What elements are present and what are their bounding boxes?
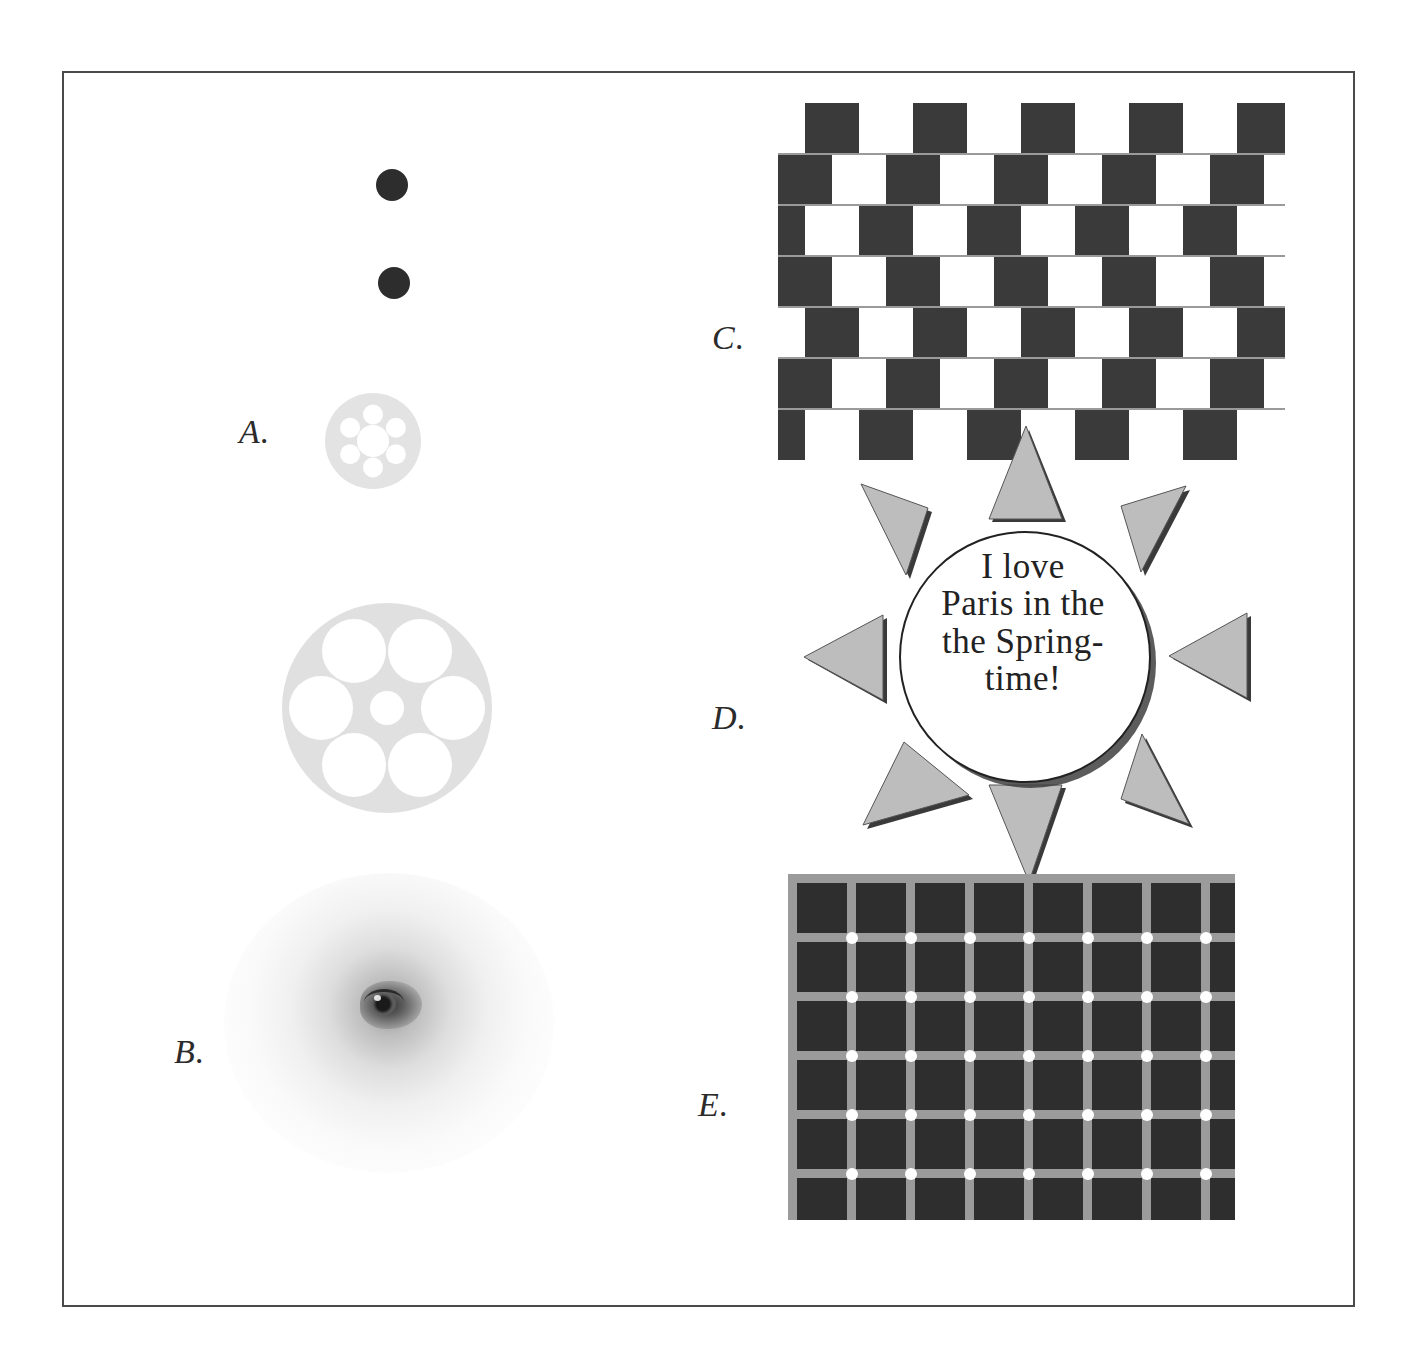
cafe-wall-tile	[778, 307, 805, 358]
cafe-wall-tile	[778, 103, 805, 154]
cafe-wall-tile	[1156, 154, 1210, 205]
grid-cell	[856, 1001, 906, 1051]
grid-cell	[1210, 883, 1235, 933]
grid-intersection-dot	[1023, 932, 1035, 944]
cafe-wall-tile	[1075, 307, 1129, 358]
grid-cell	[1033, 942, 1083, 992]
cafe-wall-tile	[886, 154, 940, 205]
grid-cell	[1033, 1001, 1083, 1051]
panel-c-cafe-wall	[778, 103, 1285, 461]
eye-lid	[364, 989, 404, 1016]
cafe-wall-row	[778, 154, 1285, 205]
cafe-wall-tile	[778, 154, 832, 205]
panel-a-label: A.	[239, 413, 270, 451]
grid-intersection-dot	[846, 1168, 858, 1180]
cafe-wall-tile	[940, 358, 994, 409]
cafe-wall-tile	[778, 205, 805, 256]
panel-d-sunburst: I love Paris in the the Spring- time!	[792, 416, 1262, 896]
grid-intersection-dot	[1023, 1050, 1035, 1062]
grid-cell	[1151, 1178, 1201, 1220]
grid-cell	[1151, 1060, 1201, 1110]
cafe-wall-mortar-line	[778, 255, 1285, 257]
grid-intersection-dot	[1200, 1050, 1212, 1062]
panel-e-scintillating-grid	[788, 874, 1235, 1220]
sun-text-line-2: Paris in the	[898, 585, 1148, 622]
cafe-wall-tile	[1183, 103, 1237, 154]
grid-intersection-dot	[964, 932, 976, 944]
grid-intersection-dot	[1141, 1050, 1153, 1062]
grid-cell	[915, 1060, 965, 1110]
grid-cell	[915, 883, 965, 933]
grid-intersection-dot	[905, 1168, 917, 1180]
grid-cell	[974, 1178, 1024, 1220]
grid-cell	[974, 1001, 1024, 1051]
grid-intersection-dot	[964, 1168, 976, 1180]
grid-cell	[1210, 1060, 1235, 1110]
grid-cell	[856, 942, 906, 992]
cafe-wall-tile	[1264, 256, 1285, 307]
cafe-wall-mortar-line	[778, 357, 1285, 359]
panel-c-label: C.	[712, 319, 745, 357]
grid-cell	[1210, 1178, 1235, 1220]
cafe-wall-tile	[994, 358, 1048, 409]
sun-text-line-1: I love	[898, 548, 1148, 585]
grid-intersection-dot	[846, 932, 858, 944]
cafe-wall-tile	[805, 307, 859, 358]
grid-cell	[856, 1060, 906, 1110]
cafe-wall-tile	[1102, 358, 1156, 409]
grid-intersection-dot	[964, 991, 976, 1003]
panel-e-label: E.	[698, 1086, 729, 1124]
grid-cell	[915, 942, 965, 992]
grid-cell	[797, 1178, 847, 1220]
cafe-wall-tile	[1156, 358, 1210, 409]
cafe-wall-tile	[1102, 256, 1156, 307]
panel-a-small-ring	[323, 391, 423, 491]
grid-intersection-dot	[1082, 932, 1094, 944]
cafe-wall-row	[778, 103, 1285, 154]
grid-cell	[1151, 1001, 1201, 1051]
cafe-wall-tile	[967, 205, 1021, 256]
small-ring-svg	[323, 391, 423, 491]
cafe-wall-row	[778, 358, 1285, 409]
grid-intersection-dot	[1082, 1168, 1094, 1180]
cafe-wall-tile	[1021, 307, 1075, 358]
cafe-wall-tile	[1210, 154, 1264, 205]
cafe-wall-tile	[859, 205, 913, 256]
grid-intersection-dot	[1200, 1168, 1212, 1180]
cafe-wall-tile	[886, 256, 940, 307]
grid-intersection-dot	[905, 1050, 917, 1062]
cafe-wall-row	[778, 256, 1285, 307]
cafe-wall-tile	[994, 154, 1048, 205]
panel-b-blurred-eye-image	[224, 873, 554, 1173]
grid-intersection-dot	[964, 1109, 976, 1121]
cafe-wall-tile	[859, 103, 913, 154]
cafe-wall-tile	[1048, 256, 1102, 307]
grid-intersection-dot	[846, 1109, 858, 1121]
grid-cell	[974, 1119, 1024, 1169]
grid-cell	[915, 1001, 965, 1051]
illusion-figure-page: A.	[0, 0, 1408, 1368]
grid-cell	[974, 942, 1024, 992]
cafe-wall-tile	[1156, 256, 1210, 307]
cafe-wall-tile	[1102, 154, 1156, 205]
panel-d-text-block: I love Paris in the the Spring- time!	[898, 548, 1148, 698]
grid-intersection-dot	[1082, 991, 1094, 1003]
cafe-wall-mortar-line	[778, 408, 1285, 410]
cafe-wall-tile	[1075, 205, 1129, 256]
grid-intersection-dot	[1023, 1109, 1035, 1121]
grid-cell	[1210, 1119, 1235, 1169]
eye-glint	[374, 995, 381, 1001]
grid-cell	[797, 1001, 847, 1051]
grid-cell	[1092, 942, 1142, 992]
cafe-wall-tile	[1210, 358, 1264, 409]
panel-a-large-ring	[280, 601, 494, 815]
cafe-wall-tile	[1264, 154, 1285, 205]
cafe-wall-tile	[778, 256, 832, 307]
grid-cell	[1092, 1001, 1142, 1051]
grid-intersection-dot	[905, 1109, 917, 1121]
panel-a-dot-bottom	[378, 267, 410, 299]
grid-cell	[797, 883, 847, 933]
grid-cell	[1033, 1178, 1083, 1220]
cafe-wall-tile	[940, 154, 994, 205]
grid-cell	[974, 883, 1024, 933]
